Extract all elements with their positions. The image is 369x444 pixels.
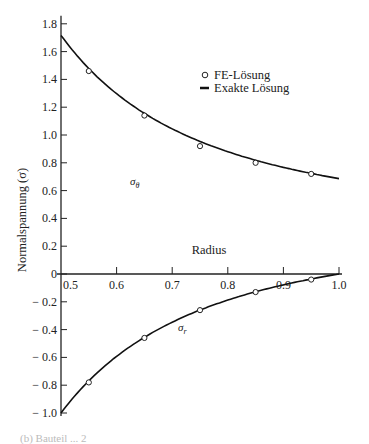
y-tick-label: 1.8 bbox=[42, 17, 57, 31]
x-tick-label: 1.0 bbox=[332, 278, 347, 292]
fe-point-marker bbox=[142, 113, 147, 118]
fe-point-marker bbox=[197, 144, 202, 149]
fe-point-marker bbox=[142, 335, 147, 340]
y-tick-label: 0.4 bbox=[42, 211, 57, 225]
fe-point-marker bbox=[253, 160, 258, 165]
legend-circle-icon bbox=[202, 72, 208, 78]
y-tick-label: 1.4 bbox=[42, 72, 57, 86]
legend: FE-Lösung Exakte Lösung bbox=[200, 68, 290, 95]
y-tick-label: − 0.2 bbox=[32, 295, 57, 309]
y-tick-label: − 0.4 bbox=[32, 323, 57, 337]
y-tick-label: 0 bbox=[51, 267, 57, 281]
x-axis-label: Radius bbox=[192, 243, 227, 257]
sigma-r-curve bbox=[61, 274, 339, 413]
curves bbox=[61, 35, 339, 413]
y-tick-label: − 0.8 bbox=[32, 378, 57, 392]
sigma-theta-annotation: σθ bbox=[130, 175, 139, 190]
sigma-r-annotation: σr bbox=[178, 321, 187, 336]
fe-point-marker bbox=[253, 289, 258, 294]
fe-point-marker bbox=[86, 380, 91, 385]
y-tick-label: − 0.6 bbox=[32, 350, 57, 364]
x-tick-label: 0.8 bbox=[220, 278, 235, 292]
fe-point-marker bbox=[309, 171, 314, 176]
x-tick-label: 0.7 bbox=[165, 278, 180, 292]
y-tick-label: 1.0 bbox=[42, 128, 57, 142]
fe-point-marker bbox=[86, 68, 91, 73]
legend-exact-label: Exakte Lösung bbox=[214, 81, 290, 95]
x-tick-label: 0.6 bbox=[109, 278, 124, 292]
axes: 1.81.61.41.21.00.80.60.40.20− 0.2− 0.4− … bbox=[32, 16, 346, 420]
sigma-theta-curve bbox=[61, 35, 339, 178]
fe-point-marker bbox=[309, 277, 314, 282]
y-tick-label: 0.2 bbox=[42, 239, 57, 253]
y-tick-label: 1.6 bbox=[42, 45, 57, 59]
y-tick-label: 0.8 bbox=[42, 156, 57, 170]
y-tick-label: − 1.0 bbox=[32, 406, 57, 420]
y-tick-label: 1.2 bbox=[42, 100, 57, 114]
y-axis-label: Normalspannung (σ) bbox=[15, 168, 29, 272]
fe-points bbox=[86, 68, 314, 385]
y-tick-label: 0.6 bbox=[42, 184, 57, 198]
x-tick-label: 0.5 bbox=[63, 278, 78, 292]
fe-point-marker bbox=[197, 308, 202, 313]
legend-fe-label: FE-Lösung bbox=[214, 68, 271, 82]
figure-caption: (b) Bauteil ... 2 bbox=[20, 432, 87, 444]
